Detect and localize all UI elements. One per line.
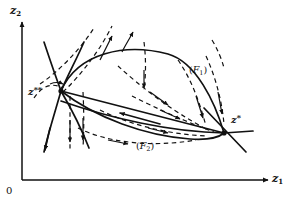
node-label-z-star: z* [231,112,241,125]
arrow-dashed-upleft-1 [100,36,112,60]
arrow-left-down-branch [45,128,50,150]
arrow-dashed-right-1 [196,96,203,118]
arrow-dashed-inner-1 [150,92,168,105]
y-axis-label: z2 [10,4,21,18]
solid-curves-group [44,42,253,152]
x-axis-label: z1 [272,172,283,186]
node-z-double-star-marker [58,88,63,93]
curve-F1-upper-arc [61,50,224,133]
origin-label: 0 [6,185,12,196]
family-label-F2: (F2) [136,140,154,153]
phase-portrait-canvas [0,0,290,209]
node-z-star-marker [221,130,226,135]
curve-right-horizontal-stub [224,131,253,133]
dashed-upleft-2 [63,26,112,92]
phase-portrait-figure: z2 z1 0 z** z* (F1) (F2) [0,0,290,209]
node-label-z-double-star: z** [28,84,42,97]
dashed-right-stub [212,40,224,68]
arrow-dashed-left-hook [50,83,63,85]
curve-left-downright-branch [61,91,89,148]
family-label-F1: (F1) [189,64,207,77]
